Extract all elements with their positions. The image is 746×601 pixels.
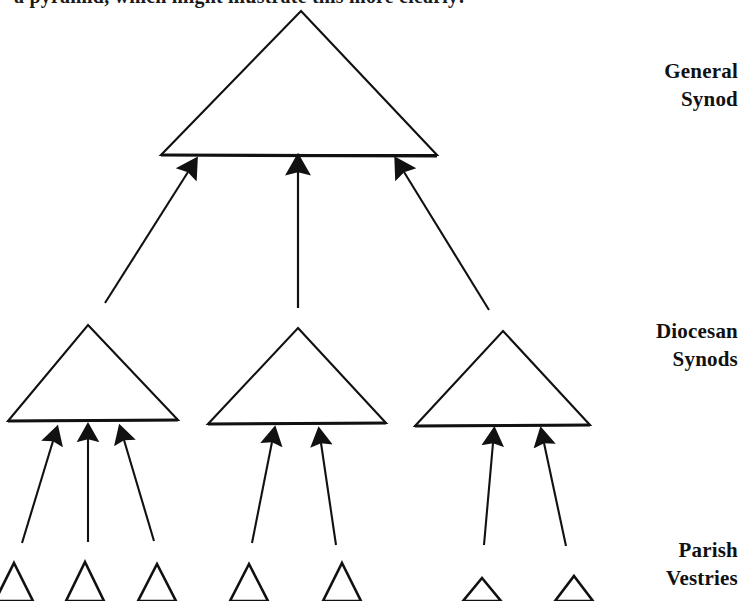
arrow-parish-1-to-diocesan-1 [22, 441, 53, 543]
tier-label-diocesan-synods-line2: Synods [656, 346, 738, 374]
arrow-parish-6-to-diocesan-3 [484, 443, 493, 545]
arrow-diocesan-3-to-general [404, 172, 489, 310]
triangle-parish-1 [0, 563, 33, 601]
tier-label-general-synod: General Synod [664, 58, 738, 113]
arrow-parish-3-to-diocesan-1 [124, 440, 154, 541]
hierarchy-diagram [0, 0, 746, 601]
tier-label-parish-vestries-line1: Parish [678, 538, 738, 562]
tier-diocesan-synods [8, 325, 590, 426]
triangle-general-synod [161, 11, 437, 155]
triangle-diocesan-2 [208, 328, 386, 424]
tier-label-parish-vestries: Parish Vestries [666, 537, 738, 592]
arrow-parish-4-to-diocesan-2 [252, 442, 272, 543]
triangle-diocesan-1-base [8, 420, 178, 421]
triangle-diocesan-3-base [415, 425, 590, 426]
triangle-general-synod-base [161, 155, 437, 156]
tier-label-general-synod-line1: General [664, 59, 738, 83]
tier-parish-vestries [0, 562, 593, 601]
arrow-parish-7-to-diocesan-3 [544, 443, 566, 546]
arrows-parish-to-diocesan [22, 439, 566, 546]
triangle-parish-6 [463, 578, 501, 601]
triangle-parish-5 [323, 563, 361, 601]
triangle-diocesan-1 [8, 325, 178, 421]
diagram-page: a pyramid, which might illustrate this m… [0, 0, 746, 601]
arrow-parish-5-to-diocesan-2 [321, 443, 336, 545]
tier-label-diocesan-synods-line1: Diocesan [656, 319, 738, 343]
tier-label-parish-vestries-line2: Vestries [666, 565, 738, 593]
triangle-parish-3 [138, 564, 176, 601]
triangle-parish-4 [230, 564, 268, 601]
triangle-parish-2 [66, 562, 104, 601]
triangle-diocesan-2-base [208, 423, 386, 424]
triangle-parish-7 [555, 576, 593, 601]
tier-label-general-synod-line2: Synod [664, 86, 738, 114]
triangle-diocesan-3 [415, 331, 590, 426]
tier-general-synod [161, 11, 437, 156]
arrows-diocesan-to-general [105, 172, 489, 310]
arrow-diocesan-1-to-general [105, 172, 188, 303]
tier-label-diocesan-synods: Diocesan Synods [656, 318, 738, 373]
